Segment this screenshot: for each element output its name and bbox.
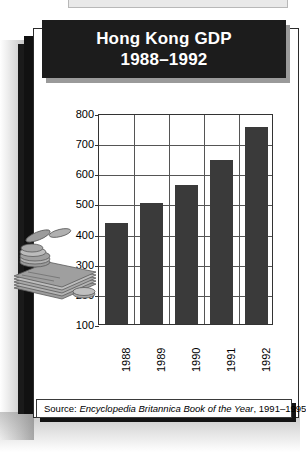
x-axis-tick-label-1989: 1989 [156, 348, 167, 372]
bar-1991 [210, 160, 234, 324]
gridline-vertical [204, 115, 205, 324]
source-publication: Encyclopedia Britannica Book of the Year [79, 403, 253, 414]
source-prefix: Source: [44, 403, 79, 414]
y-axis-tick-label: 600 [76, 169, 94, 180]
source-text: Source: Encyclopedia Britannica Book of … [44, 403, 306, 414]
plot-area [98, 114, 273, 325]
source-years: , 1991–1995 [254, 403, 307, 414]
y-axis-tick-mark [95, 145, 99, 146]
y-axis-tick-label: 700 [76, 139, 94, 150]
y-axis-tick-label: 800 [76, 109, 94, 120]
gridline-vertical [169, 115, 170, 324]
chart-title-block: Hong Kong GDP 1988–1992 [42, 20, 286, 78]
x-axis-tick-labels: 19881989199019911992 [98, 328, 273, 380]
figure-root: Hong Kong GDP 1988–1992 Billions of Hong… [0, 0, 306, 452]
chart-title-line-2: 1988–1992 [121, 49, 208, 70]
chart-title-line-1: Hong Kong GDP [96, 28, 232, 49]
y-axis-tick-mark [95, 175, 99, 176]
y-axis-tick-mark [95, 115, 99, 116]
y-axis-tick-label: 500 [76, 199, 94, 210]
x-axis-tick-label-1988: 1988 [121, 348, 132, 372]
bar-1988 [105, 223, 129, 324]
y-axis-tick-mark [95, 205, 99, 206]
gridline-vertical [239, 115, 240, 324]
y-axis-tick-mark [95, 326, 99, 327]
coins-and-banknotes-illustration [8, 228, 100, 304]
bar-1990 [175, 185, 199, 324]
y-axis-tick-label: 100 [76, 320, 94, 331]
bar-1989 [140, 203, 164, 324]
x-axis-tick-label-1992: 1992 [261, 348, 272, 372]
bar-1992 [245, 127, 269, 324]
source-bar: Source: Encyclopedia Britannica Book of … [36, 399, 292, 418]
x-axis-tick-label-1990: 1990 [191, 348, 202, 372]
cropped-top-element [68, 0, 288, 8]
gridline-vertical [134, 115, 135, 324]
x-axis-tick-label-1991: 1991 [226, 348, 237, 372]
